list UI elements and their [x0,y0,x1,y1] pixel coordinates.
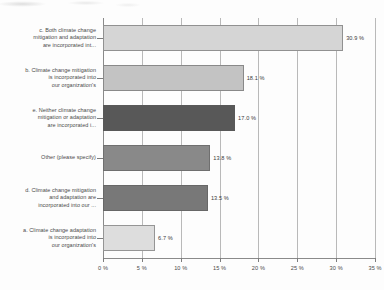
category-tick [97,38,103,39]
bar-chart: 30.9 %18.1 %17.0 %13.8 %13.5 %6.7 % c. B… [0,0,384,290]
x-tick-mark [258,258,259,262]
bar [103,225,155,251]
category-label-line: and adaptation are [4,194,96,201]
category-label: d. Climate change mitigationand adaptati… [4,187,96,209]
x-axis-line [103,258,375,259]
category-label-line: b. Climate change mitigation [4,67,96,74]
gridline [220,18,221,258]
category-label-line: d. Climate change mitigation [4,187,96,194]
x-tick-label: 35 % [368,265,381,271]
category-label-line: c. Both climate change [4,27,96,34]
scan-artifact [0,0,384,9]
x-tick-mark [220,258,221,262]
x-tick-label: 10 % [174,265,187,271]
gridline [297,18,298,258]
category-label: e. Neither climate changemitigation or a… [4,107,96,129]
x-tick-label: 25 % [291,265,304,271]
category-label-line: is incorporated into [4,74,96,81]
category-label-line: a. Climate change adaptation [4,227,96,234]
category-tick [97,238,103,239]
category-tick [97,198,103,199]
bar-value-label: 13.8 % [213,155,231,161]
y-axis-line [103,18,104,258]
x-tick-label: 5 % [137,265,147,271]
category-label-line: are incorporated i... [4,122,96,129]
bar [103,145,210,171]
bar-value-label: 18.1 % [247,75,265,81]
category-label-line: mitigation and adaptation [4,34,96,41]
gridline [142,18,143,258]
gridline [181,18,182,258]
x-tick-label: 15 % [213,265,226,271]
category-label-line: our organization's [4,242,96,249]
category-label: c. Both climate changemitigation and ada… [4,27,96,49]
x-tick-mark [375,258,376,262]
bar-value-label: 6.7 % [158,235,173,241]
category-label-line: mitigation or adaptation [4,114,96,121]
x-tick-mark [336,258,337,262]
category-label-line: is incorporated into [4,234,96,241]
category-tick [97,78,103,79]
gridline [258,18,259,258]
x-tick-label: 20 % [252,265,265,271]
bar [103,65,244,91]
category-label-line: Other (please specify) [4,154,96,161]
category-label: Other (please specify) [4,154,96,161]
bar [103,25,343,51]
category-label: a. Climate change adaptationis incorpora… [4,227,96,249]
bar-value-label: 13.5 % [211,195,229,201]
bar [103,105,235,131]
bar [103,185,208,211]
x-tick-mark [142,258,143,262]
category-label-line: our organization's [4,82,96,89]
category-tick [97,118,103,119]
category-label-line: e. Neither climate change [4,107,96,114]
category-label-line: are incorporated int... [4,42,96,49]
category-label: b. Climate change mitigationis incorpora… [4,67,96,89]
category-label-line: incorporated into our ... [4,202,96,209]
bar-value-label: 30.9 % [346,35,364,41]
x-tick-mark [103,258,104,262]
plot-area [103,18,375,258]
x-tick-mark [181,258,182,262]
gridline [375,18,376,258]
x-tick-mark [297,258,298,262]
category-tick [97,158,103,159]
gridline [336,18,337,258]
bar-value-label: 17.0 % [238,115,256,121]
x-tick-label: 30 % [330,265,343,271]
x-tick-label: 0 % [98,265,108,271]
